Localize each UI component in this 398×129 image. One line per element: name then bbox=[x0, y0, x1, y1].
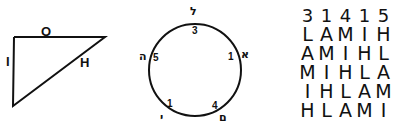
circle-number-left: 5 bbox=[153, 53, 159, 63]
circle bbox=[130, 0, 260, 129]
triangle-label-hypotenuse: H bbox=[80, 56, 89, 69]
grid-row: H L A M I bbox=[298, 101, 393, 120]
right-triangle bbox=[0, 0, 130, 129]
grid-cell: L bbox=[317, 101, 336, 120]
triangle-label-left: I bbox=[6, 55, 10, 68]
circle-number-bottom-left: 1 bbox=[167, 99, 173, 109]
circle-letter-right: א bbox=[241, 49, 249, 60]
circle-number-bottom-right: 4 bbox=[212, 101, 218, 111]
circle-letter-bottom-right: ם bbox=[219, 112, 227, 123]
grid-cell: A bbox=[336, 101, 355, 120]
grid-cell: H bbox=[298, 101, 317, 120]
triangle-label-top: O bbox=[41, 25, 51, 38]
circle-number-top: 3 bbox=[192, 26, 198, 36]
circle-number-right: 1 bbox=[228, 52, 234, 62]
letter-grid: 3 1 4 1 5 L A M I H A M I H L M I H L A … bbox=[298, 6, 393, 120]
circle-letter-top: ל bbox=[190, 6, 197, 17]
grid-cell: M bbox=[355, 101, 374, 120]
circle-letter-bottom-left: י bbox=[160, 112, 163, 123]
circle-letter-left: ה bbox=[139, 51, 147, 62]
grid-cell: I bbox=[374, 101, 393, 120]
